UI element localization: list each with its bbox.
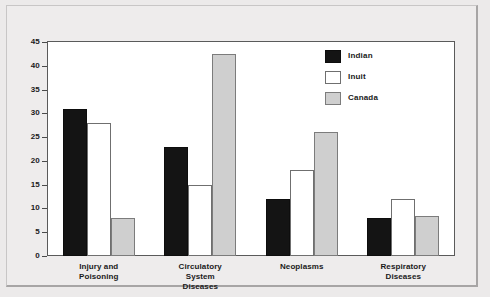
category-label-line: Diseases [355, 272, 451, 282]
bar-group [367, 42, 439, 256]
y-tick-mark [42, 137, 47, 138]
category-label-line: Neoplasms [254, 262, 350, 272]
category-label: CirculatorySystemDiseases [152, 262, 248, 292]
category-label-line: Poisoning [51, 272, 147, 282]
y-tick-mark [42, 113, 47, 114]
y-tick-mark [42, 185, 47, 186]
y-tick-mark [42, 232, 47, 233]
y-tick-label: 5 [18, 227, 40, 236]
y-tick-mark [42, 208, 47, 209]
category-label: Neoplasms [254, 262, 350, 272]
category-label: RespiratoryDiseases [355, 262, 451, 282]
bar-inuit [188, 185, 212, 256]
y-tick-mark [42, 90, 47, 91]
y-tick-label: 40 [18, 61, 40, 70]
bar-inuit [391, 199, 415, 256]
y-tick-label: 10 [18, 203, 40, 212]
legend-label: Canada [348, 93, 378, 102]
y-tick-label: 0 [18, 251, 40, 260]
y-tick-mark [42, 42, 47, 43]
bar-group [63, 42, 135, 256]
bar-indian [164, 147, 188, 256]
bar-indian [63, 109, 87, 256]
bar-indian [367, 218, 391, 256]
bar-inuit [290, 170, 314, 256]
category-label-line: Respiratory [355, 262, 451, 272]
category-label-line: Circulatory [152, 262, 248, 272]
legend-label: Indian [348, 51, 373, 60]
bar-group [164, 42, 236, 256]
y-tick-label: 30 [18, 108, 40, 117]
y-tick-mark [42, 256, 47, 257]
bar-indian [266, 199, 290, 256]
bar-canada [111, 218, 135, 256]
gray-swatch [325, 92, 341, 105]
category-label-line: Injury and [51, 262, 147, 272]
bar-canada [415, 216, 439, 256]
y-tick-label: 35 [18, 85, 40, 94]
chart-screenshot: 051015202530354045 Injury andPoisoningCi… [0, 0, 490, 297]
bar-inuit [87, 123, 111, 256]
bars-layer [48, 42, 454, 256]
legend-label: Inuit [348, 72, 366, 81]
y-tick-label: 20 [18, 156, 40, 165]
y-tick-label: 45 [18, 37, 40, 46]
bar-canada [314, 132, 338, 256]
white-swatch [325, 71, 341, 84]
category-label-line: Diseases [152, 282, 248, 292]
black-swatch [325, 50, 341, 63]
bar-canada [212, 54, 236, 256]
y-tick-label: 25 [18, 132, 40, 141]
y-tick-label: 15 [18, 180, 40, 189]
y-tick-mark [42, 161, 47, 162]
y-tick-mark [42, 66, 47, 67]
category-label-line: System [152, 272, 248, 282]
category-label: Injury andPoisoning [51, 262, 147, 282]
